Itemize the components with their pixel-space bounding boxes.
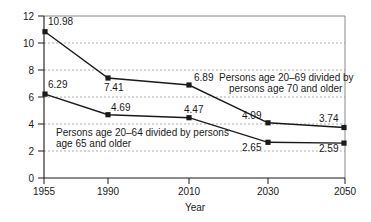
x-tick-label-1955: 1955 [33, 186, 56, 197]
data-point-2030-s1 [265, 120, 270, 125]
data-label-2-65: 2.65 [242, 142, 262, 153]
x-tick-label-2030: 2030 [257, 186, 280, 197]
data-label-2-59: 2.59 [319, 143, 339, 154]
data-point-2050-s1 [341, 125, 346, 130]
data-point-2010-s2 [186, 115, 191, 120]
y-axis-ticks [38, 16, 44, 178]
data-point-1990-s1 [105, 75, 110, 80]
chart-container: 0 2 4 6 8 10 12 1955 1990 2010 2030 2050… [0, 0, 371, 222]
line-chart: 0 2 4 6 8 10 12 1955 1990 2010 2030 2050… [0, 0, 371, 222]
y-tick-label-0: 0 [28, 173, 34, 184]
data-point-1955-s1 [42, 29, 47, 34]
y-tick-label-2: 2 [28, 146, 34, 157]
y-tick-label-10: 10 [23, 38, 35, 49]
y-tick-label-12: 12 [23, 11, 35, 22]
x-axis-ticks [44, 178, 345, 184]
data-label-10-98: 10.98 [48, 16, 73, 27]
data-label-4-09: 4.09 [242, 110, 262, 121]
data-point-2010-s1 [186, 82, 191, 87]
data-label-4-47: 4.47 [184, 104, 204, 115]
series-annotation-20-64-line1: Persons age 20–64 divided by persons [56, 127, 229, 138]
data-label-6-89: 6.89 [194, 72, 214, 83]
series-annotation-20-69-line2: persons age 70 and older [229, 83, 343, 94]
y-tick-label-6: 6 [28, 92, 34, 103]
data-point-2030-s2 [265, 140, 270, 145]
data-label-3-74: 3.74 [319, 113, 339, 124]
x-axis-title: Year [185, 202, 206, 213]
y-tick-label-4: 4 [28, 119, 34, 130]
series-annotation-20-64-line2: age 65 and older [56, 138, 132, 149]
series-annotation-20-69-line1: Persons age 20–69 divided by [219, 72, 354, 83]
data-point-1990-s2 [105, 112, 110, 117]
y-tick-label-8: 8 [28, 65, 34, 76]
data-point-1955-s2 [42, 92, 47, 97]
x-tick-label-2010: 2010 [178, 186, 201, 197]
x-tick-label-1990: 1990 [97, 186, 120, 197]
data-label-6-29: 6.29 [48, 79, 68, 90]
data-label-4-69: 4.69 [111, 102, 131, 113]
x-tick-label-2050: 2050 [334, 186, 357, 197]
data-point-2050-s2 [341, 141, 346, 146]
data-label-7-41: 7.41 [104, 82, 124, 93]
